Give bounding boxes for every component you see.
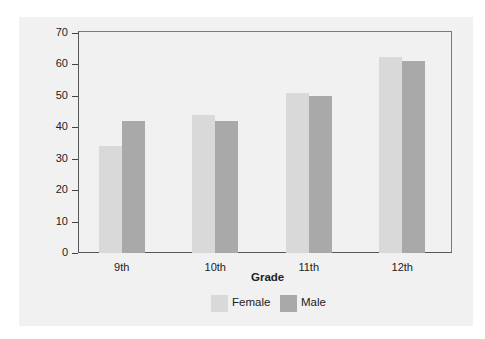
y-tick-label: 40 [38, 120, 68, 132]
bar-female-9th [99, 146, 122, 253]
x-tick-label: 11th [284, 261, 334, 273]
x-tick-label: 9th [97, 261, 147, 273]
y-tick-mark [72, 96, 78, 97]
y-tick-mark [72, 127, 78, 128]
y-tick-mark [72, 64, 78, 65]
bar-male-9th [122, 121, 145, 253]
bar-female-10th [192, 115, 215, 253]
bar-male-11th [309, 96, 332, 253]
legend-label-male: Male [301, 296, 326, 308]
bar-male-10th [215, 121, 238, 253]
y-tick-label: 60 [38, 57, 68, 69]
legend-label-female: Female [232, 296, 270, 308]
y-tick-mark [72, 253, 78, 254]
y-tick-mark [72, 222, 78, 223]
y-tick-label: 0 [38, 246, 68, 258]
y-tick-label: 20 [38, 183, 68, 195]
bar-female-12th [379, 57, 402, 253]
legend-swatch-female [211, 295, 228, 312]
y-tick-label: 70 [38, 26, 68, 38]
y-tick-mark [72, 33, 78, 34]
x-tick-label: 12th [377, 261, 427, 273]
y-tick-label: 50 [38, 89, 68, 101]
legend-swatch-male [280, 295, 297, 312]
x-axis-title: Grade [251, 271, 284, 283]
y-tick-label: 10 [38, 215, 68, 227]
bar-male-12th [402, 61, 425, 253]
bar-female-11th [286, 93, 309, 253]
y-tick-label: 30 [38, 152, 68, 164]
x-tick-label: 10th [190, 261, 240, 273]
y-tick-mark [72, 190, 78, 191]
y-tick-mark [72, 159, 78, 160]
